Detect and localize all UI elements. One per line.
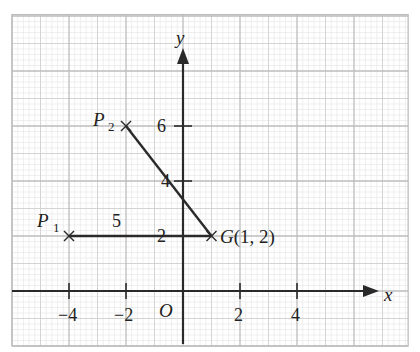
- g-label: G(1, 2): [220, 226, 275, 248]
- p1-subscript: 1: [53, 220, 60, 235]
- y-axis-label: y: [174, 27, 185, 48]
- p1-label: P: [36, 210, 49, 231]
- x-tick-label-2: 2: [234, 305, 243, 325]
- p2-label: P: [92, 109, 105, 130]
- segment-length-label: 5: [112, 211, 121, 231]
- axes: [12, 48, 379, 344]
- g-coords: (1, 2): [234, 226, 275, 248]
- graph-paper-grid: [12, 15, 408, 346]
- x-tick-label-4: 4: [291, 305, 300, 325]
- p2-subscript: 2: [108, 119, 115, 134]
- origin-label: O: [159, 300, 173, 321]
- y-tick-label-6: 6: [157, 116, 166, 136]
- y-tick-label-2: 2: [157, 226, 166, 246]
- x-tick-label-neg2: −2: [114, 305, 133, 325]
- y-tick-label-4: 4: [161, 171, 170, 191]
- coordinate-diagram: y x O −4 −2 2 4 2 4 6 P 1 P 2 G(1, 2) 5: [0, 0, 420, 352]
- g-letter: G: [220, 226, 234, 247]
- y-axis-arrow-icon: [177, 48, 189, 64]
- x-axis-label: x: [383, 284, 393, 305]
- x-tick-label-neg4: −4: [58, 305, 77, 325]
